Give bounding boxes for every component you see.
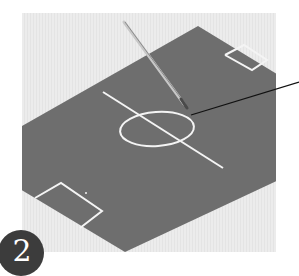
step-number: 2	[12, 236, 31, 266]
step-badge: 2	[0, 230, 44, 276]
penalty-spot	[85, 192, 87, 194]
